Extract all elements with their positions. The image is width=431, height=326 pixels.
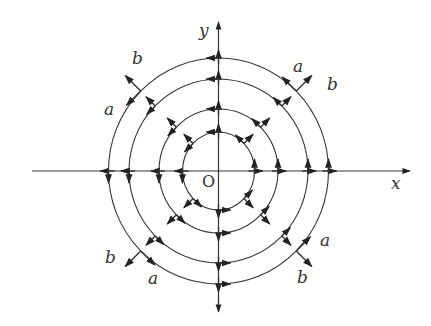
origin-label: O <box>202 174 215 190</box>
coordinate-axes <box>32 22 410 312</box>
y-axis-label: y <box>199 22 209 39</box>
x-axis-label: x <box>391 175 401 192</box>
vector-label: a <box>293 58 303 75</box>
vector-label: b <box>105 249 116 266</box>
vector-label: b <box>132 50 143 67</box>
vector-field-diagram <box>0 0 431 326</box>
vector-label: a <box>148 270 158 287</box>
vector-label: b <box>297 269 308 286</box>
vector-label: a <box>320 232 330 249</box>
vector-label: a <box>104 101 114 118</box>
vector-label: b <box>327 76 338 93</box>
